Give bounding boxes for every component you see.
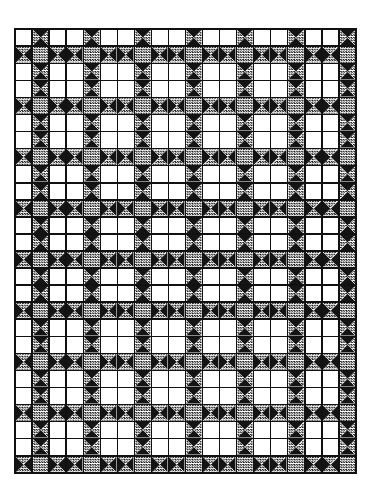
quilt-unit-light-square xyxy=(118,286,133,301)
quilt-unit-hourglass xyxy=(50,457,65,472)
quilt-unit-light-square xyxy=(220,371,235,386)
quilt-unit-light-square xyxy=(271,320,286,335)
quilt-unit-hourglass xyxy=(186,337,201,352)
quilt-unit-hourglass xyxy=(135,439,150,454)
quilt-unit-light-square xyxy=(101,218,116,233)
quilt-unit-hourglass xyxy=(101,252,116,267)
quilt-unit-light-square xyxy=(152,115,167,130)
quilt-unit-hourglass xyxy=(271,201,286,216)
quilt-unit-hourglass xyxy=(16,98,31,113)
quilt-unit-hourglass xyxy=(135,235,150,250)
quilt-unit-hourglass xyxy=(135,388,150,403)
quilt-unit-light-square xyxy=(152,184,167,199)
quilt-unit-center-medium-square xyxy=(135,457,150,472)
quilt-unit-hourglass xyxy=(118,149,133,164)
quilt-unit-center-medium-square xyxy=(340,47,355,62)
quilt-unit-hourglass xyxy=(186,235,201,250)
quilt-unit-hourglass xyxy=(135,64,150,79)
quilt-unit-light-square xyxy=(220,184,235,199)
quilt-unit-center-medium-square xyxy=(340,201,355,216)
quilt-unit-center-medium-square xyxy=(340,405,355,420)
quilt-unit-hourglass xyxy=(288,235,303,250)
quilt-unit-center-medium-square xyxy=(186,201,201,216)
quilt-unit-light-square xyxy=(118,235,133,250)
quilt-unit-hourglass xyxy=(306,47,321,62)
quilt-unit-light-square xyxy=(101,439,116,454)
quilt-unit-hourglass xyxy=(135,30,150,45)
quilt-unit-light-square xyxy=(101,388,116,403)
quilt-unit-light-square xyxy=(169,166,184,181)
quilt-unit-light-square xyxy=(306,439,321,454)
quilt-unit-hourglass xyxy=(50,149,65,164)
quilt-unit-light-square xyxy=(203,388,218,403)
quilt-unit-center-medium-square xyxy=(135,303,150,318)
quilt-unit-center-medium-square xyxy=(135,354,150,369)
quilt-unit-light-square xyxy=(67,64,82,79)
quilt-unit-light-square xyxy=(16,439,31,454)
quilt-unit-light-square xyxy=(254,371,269,386)
quilt-unit-light-square xyxy=(50,81,65,96)
quilt-unit-hourglass xyxy=(135,286,150,301)
quilt-unit-hourglass xyxy=(101,405,116,420)
quilt-unit-hourglass xyxy=(288,388,303,403)
quilt-unit-light-square xyxy=(254,30,269,45)
quilt-unit-light-square xyxy=(203,422,218,437)
quilt-unit-light-square xyxy=(67,132,82,147)
quilt-unit-center-medium-square xyxy=(237,252,252,267)
quilt-unit-light-square xyxy=(101,269,116,284)
quilt-unit-hourglass xyxy=(186,218,201,233)
quilt-unit-light-square xyxy=(323,422,338,437)
quilt-unit-hourglass xyxy=(271,303,286,318)
quilt-unit-hourglass xyxy=(84,422,99,437)
quilt-unit-hourglass xyxy=(340,132,355,147)
quilt-unit-light-square xyxy=(169,184,184,199)
quilt-unit-hourglass xyxy=(50,405,65,420)
quilt-unit-hourglass xyxy=(67,201,82,216)
quilt-unit-light-square xyxy=(118,320,133,335)
quilt-unit-hourglass xyxy=(118,47,133,62)
quilt-unit-center-medium-square xyxy=(288,47,303,62)
quilt-unit-hourglass xyxy=(323,98,338,113)
quilt-unit-hourglass xyxy=(101,98,116,113)
quilt-unit-hourglass xyxy=(50,47,65,62)
quilt-unit-light-square xyxy=(67,184,82,199)
quilt-unit-hourglass xyxy=(169,47,184,62)
quilt-unit-light-square xyxy=(203,132,218,147)
quilt-unit-light-square xyxy=(306,235,321,250)
quilt-unit-light-square xyxy=(16,132,31,147)
quilt-unit-center-medium-square xyxy=(288,303,303,318)
quilt-unit-light-square xyxy=(220,64,235,79)
quilt-unit-center-medium-square xyxy=(288,252,303,267)
quilt-unit-hourglass xyxy=(237,422,252,437)
quilt-unit-hourglass xyxy=(323,405,338,420)
quilt-unit-light-square xyxy=(323,218,338,233)
quilt-unit-light-square xyxy=(16,30,31,45)
quilt-unit-hourglass xyxy=(203,98,218,113)
quilt-unit-light-square xyxy=(16,422,31,437)
quilt-unit-light-square xyxy=(271,286,286,301)
quilt-unit-hourglass xyxy=(186,132,201,147)
quilt-unit-hourglass xyxy=(237,320,252,335)
quilt-unit-light-square xyxy=(169,269,184,284)
quilt-unit-hourglass xyxy=(152,98,167,113)
quilt-unit-light-square xyxy=(50,166,65,181)
quilt-unit-light-square xyxy=(152,371,167,386)
quilt-unit-hourglass xyxy=(135,320,150,335)
quilt-unit-hourglass xyxy=(33,320,48,335)
quilt-unit-light-square xyxy=(101,184,116,199)
quilt-unit-hourglass xyxy=(84,286,99,301)
quilt-unit-hourglass xyxy=(16,149,31,164)
quilt-unit-light-square xyxy=(152,30,167,45)
quilt-unit-center-medium-square xyxy=(340,252,355,267)
quilt-unit-light-square xyxy=(67,235,82,250)
quilt-unit-light-square xyxy=(254,269,269,284)
quilt-unit-center-medium-square xyxy=(84,47,99,62)
quilt-unit-light-square xyxy=(50,64,65,79)
quilt-unit-center-medium-square xyxy=(33,405,48,420)
quilt-unit-center-medium-square xyxy=(186,303,201,318)
quilt-unit-hourglass xyxy=(306,252,321,267)
quilt-unit-center-medium-square xyxy=(186,457,201,472)
quilt-unit-hourglass xyxy=(50,98,65,113)
quilt-unit-hourglass xyxy=(169,303,184,318)
quilt-unit-hourglass xyxy=(152,405,167,420)
